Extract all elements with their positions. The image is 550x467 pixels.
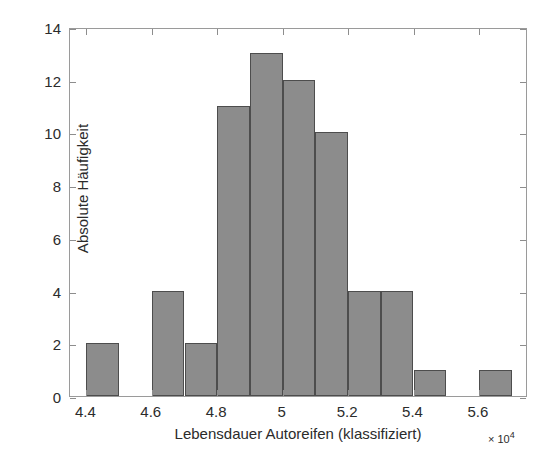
histogram-bar (348, 291, 381, 396)
y-tick-mark (520, 134, 526, 135)
y-tick-mark (520, 82, 526, 83)
x-tick-mark (479, 29, 480, 35)
x-tick-mark (414, 29, 415, 35)
x-tick-label: 5 (277, 403, 285, 420)
y-tick-mark (520, 398, 526, 399)
plot-area (69, 28, 527, 397)
x-tick-label: 5.6 (467, 403, 488, 420)
x-tick-mark (479, 390, 480, 396)
histogram-bar (283, 80, 316, 396)
x-tick-mark (414, 390, 415, 396)
y-tick-mark (70, 398, 76, 399)
y-tick-mark (520, 293, 526, 294)
x-tick-label: 4.8 (206, 403, 227, 420)
exponent-base: × 10 (488, 433, 510, 445)
x-axis-exponent-label: × 104 (488, 430, 515, 446)
x-tick-mark (152, 29, 153, 35)
y-tick-label: 8 (27, 178, 61, 195)
y-tick-mark (520, 187, 526, 188)
x-tick-label: 5.2 (337, 403, 358, 420)
y-tick-mark (520, 345, 526, 346)
bars-layer (70, 29, 526, 396)
x-tick-mark (283, 390, 284, 396)
x-tick-mark (348, 29, 349, 35)
y-tick-label: 10 (27, 125, 61, 142)
x-tick-mark (152, 390, 153, 396)
histogram-bar (152, 291, 185, 396)
y-tick-label: 4 (27, 283, 61, 300)
x-tick-label: 5.4 (402, 403, 423, 420)
histogram-bar (217, 106, 250, 396)
histogram-bar (479, 370, 512, 396)
y-tick-label: 6 (27, 230, 61, 247)
y-tick-label: 14 (27, 20, 61, 37)
y-tick-label: 12 (27, 72, 61, 89)
x-tick-mark (217, 390, 218, 396)
x-tick-label: 4.4 (75, 403, 96, 420)
x-tick-mark (217, 29, 218, 35)
y-tick-mark (520, 240, 526, 241)
histogram-bar (185, 343, 218, 396)
y-tick-label: 2 (27, 336, 61, 353)
y-tick-mark (520, 29, 526, 30)
exponent-power: 4 (510, 430, 515, 440)
x-tick-mark (283, 29, 284, 35)
y-axis-label: Absolute Häufigkeit (74, 29, 91, 349)
histogram-bar (86, 343, 119, 396)
x-axis-label: Lebensdauer Autoreifen (klassifiziert) (69, 425, 527, 442)
x-tick-mark (86, 390, 87, 396)
histogram-bar (414, 370, 447, 396)
histogram-figure: 4.44.64.855.25.45.6 02468101214 Lebensda… (0, 0, 550, 467)
x-tick-mark (348, 390, 349, 396)
x-tick-label: 4.6 (140, 403, 161, 420)
histogram-bar (381, 291, 414, 396)
histogram-bar (315, 132, 348, 396)
histogram-bar (250, 53, 283, 396)
y-tick-label: 0 (27, 389, 61, 406)
